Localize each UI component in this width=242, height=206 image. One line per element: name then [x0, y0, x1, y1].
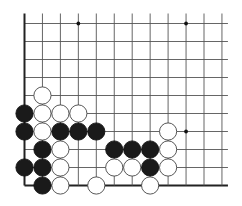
white-stone-icon: [52, 105, 69, 122]
go-board-diagram: [0, 0, 242, 206]
black-stone-icon: [70, 123, 87, 140]
white-stone-icon: [124, 159, 141, 176]
black-stone-icon: [34, 159, 51, 176]
board-background: [0, 0, 242, 206]
black-stone-icon: [16, 159, 33, 176]
black-stone-icon: [16, 123, 33, 140]
go-board-canvas: [0, 0, 242, 206]
black-stone-icon: [34, 141, 51, 158]
white-stone-icon: [160, 159, 177, 176]
black-stone-icon: [142, 141, 159, 158]
white-stone-icon: [52, 141, 69, 158]
white-stone-icon: [88, 177, 105, 194]
black-stone-icon: [88, 123, 105, 140]
white-stone-icon: [52, 159, 69, 176]
white-stone-icon: [34, 87, 51, 104]
black-stone-icon: [106, 141, 123, 158]
star-point-icon: [184, 130, 188, 134]
black-stone-icon: [124, 141, 141, 158]
black-stone-icon: [52, 123, 69, 140]
star-point-icon: [184, 22, 188, 26]
black-stone-icon: [34, 177, 51, 194]
white-stone-icon: [106, 159, 123, 176]
black-stone-icon: [142, 159, 159, 176]
white-stone-icon: [70, 105, 87, 122]
white-stone-icon: [34, 123, 51, 140]
star-point-icon: [76, 22, 80, 26]
white-stone-icon: [34, 105, 51, 122]
white-stone-icon: [52, 177, 69, 194]
white-stone-icon: [160, 141, 177, 158]
black-stone-icon: [16, 105, 33, 122]
white-stone-icon: [160, 123, 177, 140]
white-stone-icon: [142, 177, 159, 194]
